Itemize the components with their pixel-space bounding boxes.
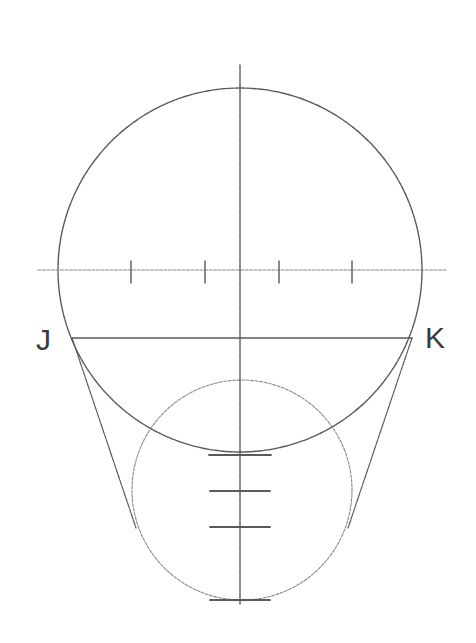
small-circle xyxy=(132,380,352,600)
construction-drawing xyxy=(0,0,476,643)
point-label-j: J xyxy=(36,325,51,355)
point-label-k: K xyxy=(425,323,445,353)
tangent-line-left xyxy=(72,338,136,528)
tangent-line-right xyxy=(348,338,412,528)
